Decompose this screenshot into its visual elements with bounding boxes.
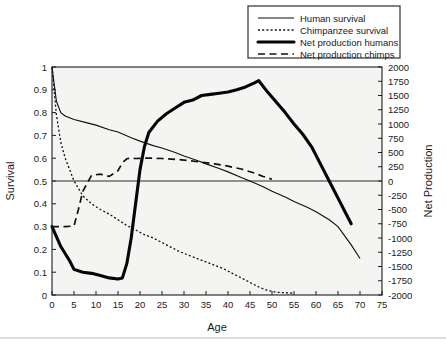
y-tick-label: 0.2 xyxy=(34,244,47,255)
y2-tick-label: 1500 xyxy=(388,90,409,101)
legend-item-label: Net production humans xyxy=(300,37,398,48)
y2-tick-label: 0 xyxy=(388,176,393,187)
x-tick-label: 5 xyxy=(71,299,76,310)
y2-tick-label: -1500 xyxy=(388,261,412,272)
x-tick-label: 55 xyxy=(289,299,300,310)
y2-axis-label: Net Production xyxy=(422,145,434,218)
x-tick-label: 15 xyxy=(113,299,124,310)
y-axis-label: Survival xyxy=(4,161,16,200)
chart-figure: 051015202530354045505560657075 00.10.20.… xyxy=(0,0,446,347)
y-tick-label: 0.4 xyxy=(34,198,47,209)
y2-tick-label: -1750 xyxy=(388,275,412,286)
chart-legend: Human survivalChimpanzee survivalNet pro… xyxy=(248,6,400,60)
x-tick-label: 0 xyxy=(49,299,54,310)
y-tick-label: 0.9 xyxy=(34,84,47,95)
y2-tick-label: 2000 xyxy=(388,62,409,73)
legend-item-label: Human survival xyxy=(300,13,365,24)
y2-tick-label: 1750 xyxy=(388,76,409,87)
x-tick-label: 25 xyxy=(157,299,168,310)
y-tick-label: 1 xyxy=(42,62,47,73)
y2-tick-label: -250 xyxy=(388,190,407,201)
y2-tick-label: 500 xyxy=(388,147,404,158)
legend-item-label: Net production chimps xyxy=(300,49,395,60)
y2-tick-label: 250 xyxy=(388,161,404,172)
y2-tick-label: -1000 xyxy=(388,233,412,244)
x-tick-label: 45 xyxy=(245,299,256,310)
legend-item-label: Chimpanzee survival xyxy=(300,25,388,36)
y-tick-label: 0.5 xyxy=(34,176,47,187)
x-axis-label: Age xyxy=(207,321,227,333)
x-tick-label: 40 xyxy=(223,299,234,310)
y2-tick-label: -1250 xyxy=(388,247,412,258)
x-tick-label: 10 xyxy=(91,299,102,310)
x-tick-label: 60 xyxy=(311,299,322,310)
y2-tick-label: 1250 xyxy=(388,104,409,115)
y2-tick-label: -500 xyxy=(388,204,407,215)
survival-net-production-chart: 051015202530354045505560657075 00.10.20.… xyxy=(0,0,446,347)
y-tick-label: 0.7 xyxy=(34,130,47,141)
y-tick-label: 0.1 xyxy=(34,267,47,278)
y2-tick-label: 750 xyxy=(388,133,404,144)
x-tick-label: 70 xyxy=(355,299,366,310)
y-tick-label: 0.8 xyxy=(34,107,47,118)
x-tick-label: 35 xyxy=(201,299,212,310)
y2-tick-label: 1000 xyxy=(388,119,409,130)
y-tick-label: 0.3 xyxy=(34,221,47,232)
y-tick-label: 0 xyxy=(42,290,47,301)
x-tick-label: 20 xyxy=(135,299,146,310)
x-tick-label: 30 xyxy=(179,299,190,310)
y-tick-label: 0.6 xyxy=(34,153,47,164)
y2-tick-label: -2000 xyxy=(388,290,412,301)
y2-tick-label: -750 xyxy=(388,218,407,229)
x-tick-label: 50 xyxy=(267,299,278,310)
x-tick-label: 75 xyxy=(377,299,388,310)
x-tick-label: 65 xyxy=(333,299,344,310)
